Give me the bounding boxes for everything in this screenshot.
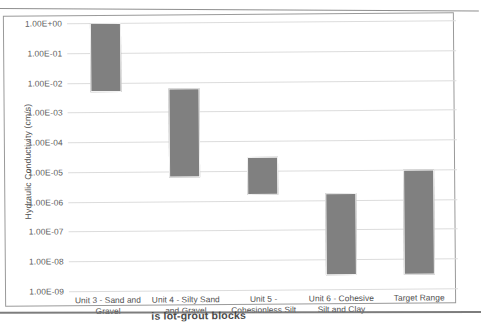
- bar-4[interactable]: [325, 193, 357, 275]
- bar-1[interactable]: [90, 23, 122, 92]
- page-caption-fragment: is lot-grout blocks: [151, 307, 481, 322]
- bar-3[interactable]: [247, 156, 278, 195]
- y-axis-tick-label: 1.00E-06: [28, 197, 63, 207]
- gridline: [68, 199, 457, 203]
- page-edge-top: [0, 8, 479, 12]
- gridline: [69, 288, 458, 292]
- y-axis-tick-label: 1.00E-08: [29, 257, 64, 267]
- bar-2[interactable]: [169, 88, 201, 178]
- y-axis-tick-label: 1.00E-09: [29, 286, 64, 296]
- gridline: [69, 258, 458, 262]
- scanned-page: Hydraulic Conductivity (cm/s) 1.00E+001.…: [0, 0, 469, 320]
- gridline: [69, 229, 458, 233]
- y-axis-tick-label: 1.00E+00: [25, 18, 62, 28]
- y-axis-tick-label: 1.00E-01: [27, 48, 62, 58]
- gridline: [67, 80, 456, 84]
- bar-5[interactable]: [403, 169, 435, 274]
- y-axis-tick-label: 1.00E-02: [28, 78, 63, 88]
- gridline: [68, 139, 457, 143]
- gridline: [68, 110, 457, 114]
- chart-frame: Hydraulic Conductivity (cm/s) 1.00E+001.…: [3, 12, 456, 307]
- y-axis-tick-label: 1.00E-05: [28, 167, 63, 177]
- y-axis-title: Hydraulic Conductivity (cm/s): [20, 31, 36, 293]
- gridline: [67, 20, 456, 24]
- y-axis-tick-label: 1.00E-07: [29, 227, 64, 237]
- y-axis-tick-label: 1.00E-03: [28, 108, 63, 118]
- x-axis-category-label: Target Range: [383, 292, 455, 303]
- plot-area: 1.00E+001.00E-011.00E-021.00E-031.00E-04…: [67, 20, 458, 291]
- gridline: [67, 50, 456, 54]
- y-axis-tick-label: 1.00E-04: [28, 137, 63, 147]
